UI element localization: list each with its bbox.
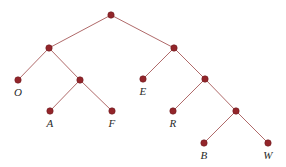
tree-edge (204, 111, 236, 143)
tree-node (265, 140, 271, 146)
tree-edge (143, 48, 174, 79)
tree-node-label-a: A (47, 118, 54, 129)
tree-node (140, 76, 146, 82)
tree-node (108, 12, 114, 18)
tree-node (201, 140, 207, 146)
tree-node (77, 77, 83, 83)
tree-edge (111, 15, 174, 48)
tree-edge (49, 15, 111, 48)
tree-node (46, 45, 52, 51)
tree-node (233, 108, 239, 114)
tree-node (109, 108, 115, 114)
tree-node (47, 108, 53, 114)
tree-edge (49, 48, 80, 80)
binary-tree-figure: OAFERBW (0, 0, 286, 167)
tree-edge (50, 80, 80, 111)
tree-node-label-r: R (170, 118, 177, 129)
tree-edge (18, 48, 49, 80)
tree-edge (205, 79, 236, 111)
tree-node (171, 45, 177, 51)
tree-node-label-o: O (14, 87, 22, 98)
tree-graph-canvas (0, 0, 286, 167)
tree-node (15, 77, 21, 83)
tree-edge (80, 80, 112, 111)
tree-edge (174, 48, 205, 79)
tree-edge (236, 111, 268, 143)
tree-edge (173, 79, 205, 111)
tree-node-label-e: E (140, 86, 147, 97)
tree-node-label-w: W (263, 150, 272, 161)
tree-node (202, 76, 208, 82)
tree-node-label-f: F (109, 118, 116, 129)
tree-node-label-b: B (201, 150, 208, 161)
tree-node (170, 108, 176, 114)
